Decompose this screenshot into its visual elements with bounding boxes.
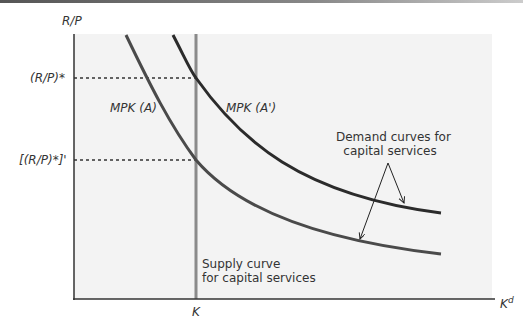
supply-annotation-line2: for capital services — [202, 271, 316, 285]
x-axis-label-superscript: d — [508, 295, 514, 305]
supply-annotation-line1: Supply curve — [202, 257, 316, 271]
rp-star-label: (R/P)* — [30, 71, 65, 85]
rp-star-prime-label: [(R/P)*]' — [19, 153, 67, 167]
demand-annotation-line1: Demand curves for — [336, 130, 444, 144]
k-tick-label: K — [192, 305, 200, 319]
x-axis-label-main: K — [500, 297, 508, 311]
supply-curve-annotation: Supply curve for capital services — [202, 257, 316, 285]
mpk-a-prime-label: MPK (A') — [226, 101, 276, 115]
demand-annotation-line2: capital services — [336, 144, 444, 158]
mpk-a-label: MPK (A) — [110, 101, 157, 115]
demand-curves-annotation: Demand curves for capital services — [336, 130, 444, 158]
y-axis-label: R/P — [62, 14, 82, 28]
x-axis-label: Kd — [500, 293, 514, 311]
